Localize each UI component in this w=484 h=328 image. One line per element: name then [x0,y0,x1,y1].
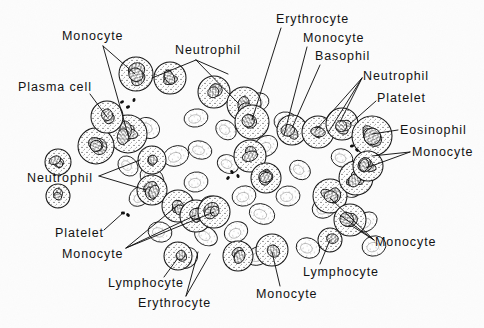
erythrocyte-membrane [286,156,314,183]
erythrocyte [183,107,210,129]
label-erythrocyte-top-right: Erythrocyte [276,13,349,26]
nucleus-lobe [101,109,112,121]
leukocyte [235,105,269,139]
nucleus-lobe [326,233,338,243]
platelet [236,174,240,179]
label-monocyte-bottom: Monocyte [256,288,317,301]
platelet [225,175,230,180]
platelet [119,100,124,104]
lead-monocyte-left-lower-b [126,215,196,248]
label-monocyte-right-lower: Monocyte [375,236,436,249]
blood-smear-artwork [0,0,484,328]
label-neutrophil-top: Neutrophil [175,44,241,57]
erythrocyte-membrane [182,170,209,194]
leukocyte [138,146,166,174]
erythrocyte-membrane [275,185,301,207]
label-erythrocyte-bottom: Erythrocyte [138,297,211,310]
erythrocyte-membrane [183,107,210,129]
label-platelet-right: Platelet [377,92,426,105]
label-neutrophil-right: Neutrophil [363,70,429,83]
leukocyte [46,184,70,208]
erythrocyte [286,156,314,183]
lead-neutrophil-top-b [196,60,228,74]
label-eosinophil: Eosinophil [400,124,467,137]
leukocyte [164,242,192,270]
label-lymphocyte-bottom-left: Lymphocyte [108,277,184,290]
leukocyte [198,76,230,108]
label-monocyte-top-right: Monocyte [303,32,364,45]
erythrocyte [186,138,214,162]
blood-smear-figure: MonocyteNeutrophilErythrocyteMonocyteBas… [0,0,484,328]
leukocyte [154,62,186,94]
leukocyte [119,57,153,91]
platelet [126,105,131,109]
erythrocyte-membrane [114,152,142,180]
erythrocyte [275,185,301,207]
leukocyte [251,163,281,193]
leukocyte [256,234,288,266]
label-basophil: Basophil [315,50,370,63]
label-monocyte-top-left: Monocyte [62,30,123,43]
cell-cluster [45,57,392,273]
platelet [125,213,130,218]
label-plasma-cell: Plasma cell [18,81,92,94]
platelet [132,98,136,103]
erythrocyte-membrane [186,138,214,162]
label-lymphocyte-right: Lymphocyte [303,266,379,279]
erythrocyte [246,200,277,228]
label-neutrophil-left: Neutrophil [27,172,93,185]
erythrocyte [114,152,142,180]
lead-monocyte-left-lower-a [126,205,178,248]
label-platelet-left: Platelet [55,227,104,240]
lead-platelet-left [104,212,124,230]
leukocyte [223,241,253,271]
label-monocyte-left-lower: Monocyte [62,248,123,261]
erythrocyte [182,170,209,194]
erythrocyte-membrane [246,200,277,228]
label-monocyte-right-upper: Monocyte [412,146,473,159]
nucleus-lobe [335,120,346,132]
